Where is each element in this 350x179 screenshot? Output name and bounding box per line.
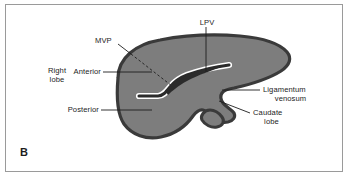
label-mvp: MVP xyxy=(95,36,112,45)
label-ligamentum-venosum-line2: venosum xyxy=(263,94,318,103)
panel-letter-label: B xyxy=(20,146,28,158)
mvp-leader-line xyxy=(118,44,131,54)
label-lpv: LPV xyxy=(192,18,222,27)
label-posterior: Posterior xyxy=(52,105,99,114)
label-ligamentum-venosum-line1: Ligamentum xyxy=(263,85,306,94)
label-caudate-lobe-line1: Caudate xyxy=(253,108,282,117)
label-anterior: Anterior xyxy=(58,67,101,76)
label-caudate-lobe-line2: lobe xyxy=(253,117,290,126)
label-right-lobe-line2: lobe xyxy=(36,75,78,84)
figure-panel: LPV MVP Right lobe Anterior Posterior Li… xyxy=(0,0,350,179)
